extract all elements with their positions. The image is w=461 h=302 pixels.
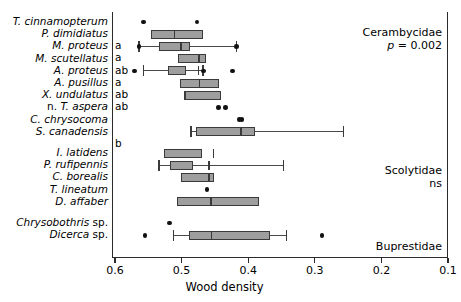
- whisker-cap: [190, 126, 191, 137]
- species-label: A. proteus: [54, 64, 108, 76]
- whisker-cap: [143, 65, 144, 76]
- median-line: [240, 127, 241, 136]
- data-point: [234, 44, 239, 49]
- family-annotation: Buprestidae: [376, 240, 442, 253]
- box: [178, 54, 207, 63]
- species-label: Dicerca sp.: [49, 228, 108, 240]
- median-line: [199, 79, 200, 88]
- x-tick: [314, 258, 315, 263]
- median-line: [208, 173, 209, 182]
- median-line: [211, 231, 212, 240]
- x-tick-label: 0.2: [361, 264, 401, 277]
- species-label: S. canadensis: [36, 125, 108, 137]
- x-tick: [114, 258, 115, 263]
- data-point: [205, 187, 210, 192]
- box: [168, 66, 187, 75]
- median-line: [210, 197, 211, 206]
- x-tick-label: 0.6: [95, 264, 135, 277]
- box: [184, 91, 221, 100]
- significance-letter: ab: [115, 100, 128, 112]
- species-label: C. borealis: [52, 170, 108, 182]
- whisker-cap: [173, 230, 174, 241]
- whisker-cap: [286, 230, 287, 241]
- family-name: Cerambycidae: [362, 26, 442, 39]
- plot-area: aaabaababbCerambycidaep = 0.002Scolytida…: [112, 12, 448, 258]
- x-tick: [447, 258, 448, 263]
- box: [159, 42, 190, 51]
- species-label: M. scutellatus: [35, 52, 108, 64]
- data-point: [195, 20, 200, 25]
- median-line: [174, 30, 175, 39]
- median-line: [180, 42, 181, 51]
- significance-letter: b: [115, 137, 122, 149]
- data-point: [132, 69, 137, 74]
- species-label: T. cinnamopterum: [13, 15, 108, 27]
- species-label: I. latidens: [57, 146, 108, 158]
- x-axis-title: Wood density: [0, 280, 449, 294]
- median-line: [198, 54, 199, 63]
- whisker-cap: [283, 160, 284, 171]
- median-line: [213, 149, 214, 158]
- significance-letter: ab: [115, 64, 128, 76]
- whisker-cap: [343, 126, 344, 137]
- family-name: Scolytidae: [385, 164, 442, 177]
- data-point: [143, 233, 148, 238]
- box: [177, 197, 259, 206]
- median-line: [185, 91, 186, 100]
- significance-letter: ab: [115, 88, 128, 100]
- x-tick: [248, 258, 249, 263]
- median-line: [208, 161, 209, 170]
- box: [189, 231, 270, 240]
- data-point: [240, 117, 245, 122]
- species-label: D. affaber: [55, 195, 108, 207]
- data-point: [167, 221, 172, 226]
- family-name: Buprestidae: [376, 240, 442, 253]
- species-label: C. chrysocoma: [30, 113, 108, 125]
- species-label: X. undulatus: [42, 88, 108, 100]
- data-point: [223, 105, 228, 110]
- family-annotation: Cerambycidaep = 0.002: [362, 26, 442, 52]
- x-tick-label: 0.3: [295, 264, 335, 277]
- species-label: P. rufipennis: [44, 158, 108, 170]
- data-point: [141, 20, 146, 25]
- data-point: [230, 69, 235, 74]
- whisker-cap: [158, 160, 159, 171]
- species-label: n. T. aspera: [47, 100, 108, 112]
- data-point: [216, 105, 221, 110]
- family-pvalue: ns: [429, 177, 442, 190]
- significance-letter: a: [115, 76, 121, 88]
- x-tick: [381, 258, 382, 263]
- x-tick-label: 0.4: [228, 264, 268, 277]
- significance-letter: a: [115, 39, 121, 51]
- data-point: [320, 233, 325, 238]
- species-label-column: T. cinnamopterumP. dimidiatusM. proteusM…: [0, 0, 112, 258]
- species-label: T. lineatum: [50, 183, 108, 195]
- family-pvalue: p = 0.002: [387, 39, 442, 52]
- species-label: A. pusillus: [54, 76, 108, 88]
- data-point: [201, 69, 206, 74]
- significance-letter: a: [115, 51, 121, 63]
- box: [164, 149, 201, 158]
- median-line: [198, 66, 199, 75]
- species-label: M. proteus: [52, 39, 108, 51]
- species-label: P. dimidiatus: [41, 27, 108, 39]
- box: [151, 30, 203, 39]
- data-point: [137, 44, 142, 49]
- x-tick-label: 0.5: [162, 264, 202, 277]
- x-tick-label: 0.1: [428, 264, 461, 277]
- box: [170, 161, 193, 170]
- family-annotation: Scolytidaens: [385, 164, 442, 190]
- x-tick: [181, 258, 182, 263]
- species-label: Chrysobothris sp.: [16, 216, 108, 228]
- box: [196, 127, 255, 136]
